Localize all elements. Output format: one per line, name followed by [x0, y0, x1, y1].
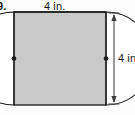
figure-drawing: [0, 0, 135, 115]
top-dimension-label: 4 in.: [44, 1, 65, 12]
geometry-figure: 9. 4 in. 4 in.: [0, 0, 135, 115]
right-midpoint-dot: [104, 56, 109, 61]
left-midpoint-dot: [12, 56, 17, 61]
problem-number-label: 9.: [0, 1, 6, 12]
right-dimension-label: 4 in.: [118, 53, 135, 64]
